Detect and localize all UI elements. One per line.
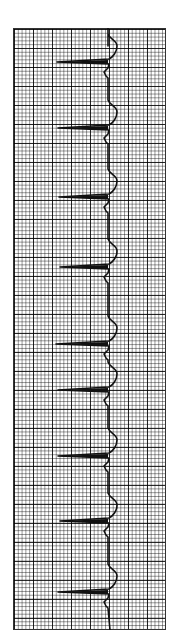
ecg-trace <box>0 0 178 641</box>
ecg-trace-path <box>56 28 117 630</box>
ecg-waveform <box>56 28 117 630</box>
